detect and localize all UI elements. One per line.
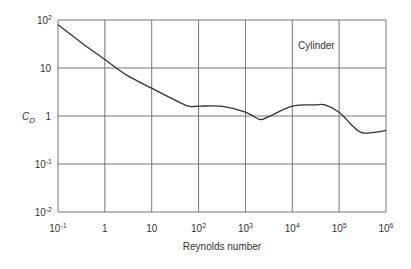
tick-label: 10 [146,223,158,234]
grid-lines [58,20,386,212]
tick-label: 10-1 [35,158,52,170]
tick-label: 103 [238,222,253,234]
y-axis-ticks: 10210110-110-2 [35,14,52,218]
tick-label: 10-1 [49,222,66,234]
tick-label: 102 [191,222,206,234]
cylinder-drag-curve [58,25,386,133]
tick-label: 106 [378,222,393,234]
tick-label: 10 [40,63,52,74]
x-axis-label: Reynolds number [183,241,262,252]
cylinder-annotation: Cylinder [298,40,335,51]
tick-label: 105 [332,222,347,234]
y-axis-label: CD [22,111,35,125]
tick-label: 104 [285,222,300,234]
drag-coefficient-chart: 10210110-110-2 10-1110102103104105106 Cy… [0,0,411,269]
tick-label: 1 [45,111,51,122]
tick-label: 10-2 [35,206,52,218]
x-axis-ticks: 10-1110102103104105106 [49,222,393,234]
tick-label: 102 [37,14,52,26]
tick-label: 1 [102,223,108,234]
